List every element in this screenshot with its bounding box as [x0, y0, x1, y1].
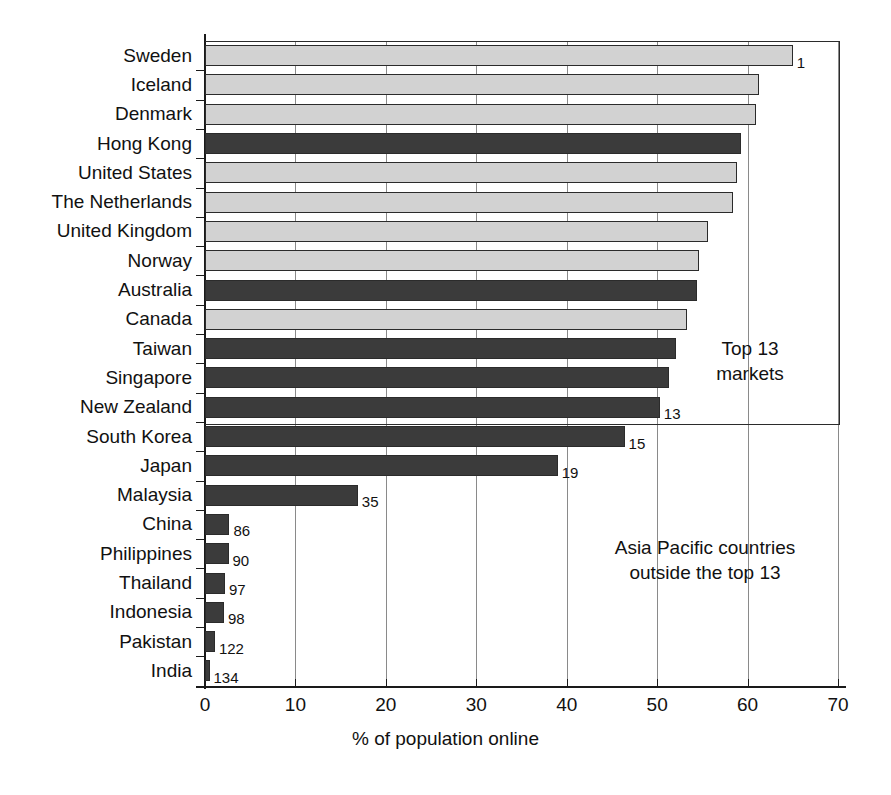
x-tick-label-30: 30 — [446, 694, 506, 716]
x-tick-label-50: 50 — [627, 694, 687, 716]
bar-sweden — [205, 45, 793, 66]
bar-rank-label-sweden: 1 — [797, 55, 805, 70]
category-label-iceland: Iceland — [0, 75, 192, 94]
y-tick-15 — [196, 510, 205, 511]
x-tick-label-0: 0 — [175, 694, 235, 716]
y-tick-5 — [196, 217, 205, 218]
bar-denmark — [205, 104, 756, 125]
x-axis-title: % of population online — [0, 728, 891, 750]
bar-rank-label-japan: 19 — [562, 465, 579, 480]
category-label-canada: Canada — [0, 309, 192, 328]
category-label-taiwan: Taiwan — [0, 339, 192, 358]
annotation-asia-pacific-outside: Asia Pacific countries outside the top 1… — [545, 535, 865, 585]
y-tick-18 — [196, 598, 205, 599]
bar-pakistan — [205, 631, 215, 652]
y-tick-21 — [196, 686, 205, 687]
bar-malaysia — [205, 485, 358, 506]
category-label-thailand: Thailand — [0, 573, 192, 592]
bar-united-kingdom — [205, 221, 708, 242]
y-tick-3 — [196, 158, 205, 159]
x-tick-50 — [657, 679, 658, 688]
bar-rank-label-malaysia: 35 — [362, 494, 379, 509]
category-label-indonesia: Indonesia — [0, 602, 192, 621]
y-tick-6 — [196, 246, 205, 247]
category-label-denmark: Denmark — [0, 104, 192, 123]
category-label-hong-kong: Hong Kong — [0, 134, 192, 153]
y-tick-1 — [196, 100, 205, 101]
bar-singapore — [205, 367, 669, 388]
category-label-south-korea: South Korea — [0, 427, 192, 446]
bar-rank-label-china: 86 — [233, 523, 250, 538]
x-tick-10 — [295, 679, 296, 688]
category-label-united-states: United States — [0, 163, 192, 182]
y-tick-7 — [196, 275, 205, 276]
category-label-philippines: Philippines — [0, 544, 192, 563]
bar-rank-label-pakistan: 122 — [219, 641, 244, 656]
category-label-sweden: Sweden — [0, 46, 192, 65]
category-label-united-kingdom: United Kingdom — [0, 221, 192, 240]
x-tick-label-60: 60 — [718, 694, 778, 716]
y-tick-11 — [196, 393, 205, 394]
y-tick-16 — [196, 539, 205, 540]
x-tick-label-20: 20 — [356, 694, 416, 716]
bar-united-states — [205, 162, 737, 183]
bar-india — [205, 660, 210, 681]
bar-rank-label-thailand: 97 — [229, 582, 246, 597]
bar-iceland — [205, 74, 759, 95]
y-tick-19 — [196, 627, 205, 628]
y-tick-2 — [196, 129, 205, 130]
y-tick-17 — [196, 568, 205, 569]
bar-indonesia — [205, 602, 224, 623]
category-label-australia: Australia — [0, 280, 192, 299]
bar-thailand — [205, 573, 225, 594]
annotation-frame-divider-line — [205, 424, 840, 425]
x-tick-30 — [476, 679, 477, 688]
y-tick-12 — [196, 422, 205, 423]
chart-container: 010203040506070 SwedenIcelandDenmarkHong… — [0, 0, 891, 795]
category-label-new-zealand: New Zealand — [0, 397, 192, 416]
bar-new-zealand — [205, 397, 660, 418]
bar-hong-kong — [205, 133, 741, 154]
y-tick-10 — [196, 363, 205, 364]
category-label-china: China — [0, 514, 192, 533]
x-tick-label-70: 70 — [808, 694, 868, 716]
y-tick-8 — [196, 305, 205, 306]
category-label-japan: Japan — [0, 456, 192, 475]
bar-australia — [205, 280, 697, 301]
bar-philippines — [205, 543, 229, 564]
x-tick-70 — [838, 679, 839, 688]
bar-rank-label-south-korea: 15 — [629, 436, 646, 451]
x-tick-60 — [748, 679, 749, 688]
bar-japan — [205, 455, 558, 476]
category-label-malaysia: Malaysia — [0, 485, 192, 504]
bar-rank-label-new-zealand: 13 — [664, 406, 681, 421]
category-label-singapore: Singapore — [0, 368, 192, 387]
bar-rank-label-india: 134 — [214, 670, 239, 685]
y-tick-9 — [196, 334, 205, 335]
category-label-pakistan: Pakistan — [0, 632, 192, 651]
y-tick-0 — [196, 70, 205, 71]
y-tick-14 — [196, 481, 205, 482]
bar-china — [205, 514, 229, 535]
bar-norway — [205, 250, 699, 271]
bar-rank-label-philippines: 90 — [233, 553, 250, 568]
bar-rank-label-indonesia: 98 — [228, 611, 245, 626]
bar-south-korea — [205, 426, 625, 447]
x-tick-label-10: 10 — [265, 694, 325, 716]
x-tick-40 — [567, 679, 568, 688]
bar-taiwan — [205, 338, 676, 359]
y-tick-13 — [196, 451, 205, 452]
x-tick-20 — [386, 679, 387, 688]
bar-canada — [205, 309, 687, 330]
y-tick-20 — [196, 656, 205, 657]
category-label-norway: Norway — [0, 251, 192, 270]
category-label-the-netherlands: The Netherlands — [0, 192, 192, 211]
x-tick-label-40: 40 — [537, 694, 597, 716]
bar-the-netherlands — [205, 192, 733, 213]
annotation-frame-top-line — [205, 41, 840, 42]
category-label-india: India — [0, 661, 192, 680]
y-tick-4 — [196, 188, 205, 189]
annotation-top-13-markets: Top 13 markets — [660, 336, 840, 386]
